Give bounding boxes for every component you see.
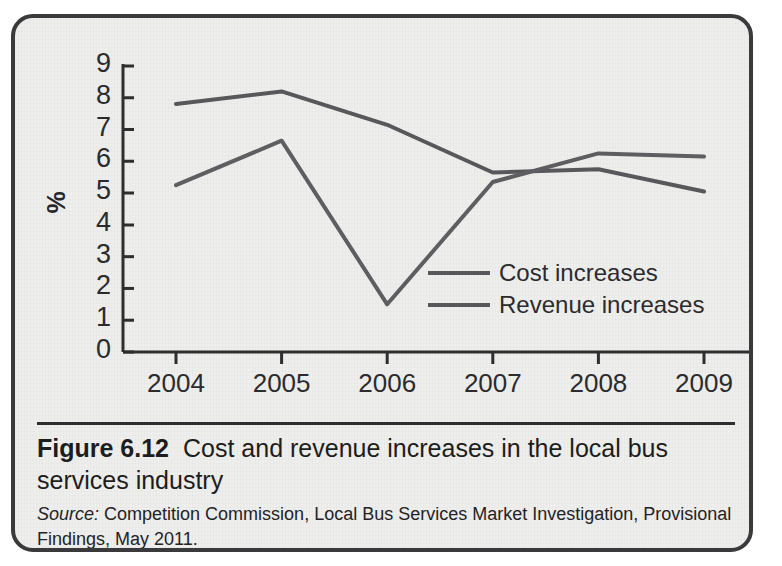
y-tick-label: 0 (81, 334, 111, 365)
y-axis-title: % (42, 191, 71, 213)
x-tick-label: 2009 (649, 368, 753, 399)
legend-swatch-revenue-increases (428, 303, 490, 307)
y-tick-label: 3 (81, 239, 111, 270)
legend-label-revenue-increases: Revenue increases (499, 291, 704, 319)
legend-item-cost-increases: Cost increases (428, 257, 704, 289)
x-tick-label: 2004 (121, 368, 231, 399)
x-tick-label: 2005 (227, 368, 337, 399)
chart-svg (15, 18, 753, 410)
y-tick-label: 5 (81, 175, 111, 206)
figure-caption: Figure 6.12Cost and revenue increases in… (37, 432, 737, 496)
x-tick-label: 2006 (332, 368, 442, 399)
y-tick-label: 8 (81, 80, 111, 111)
y-axis (123, 64, 134, 352)
chart-legend: Cost increases Revenue increases (428, 257, 704, 321)
caption-divider (37, 422, 735, 425)
y-tick-label: 2 (81, 270, 111, 301)
source-label: Source: (37, 504, 99, 524)
source-text: Competition Commission, Local Bus Servic… (37, 504, 731, 549)
legend-item-revenue-increases: Revenue increases (428, 289, 704, 321)
figure-card: % 0123456789 200420052006200720082009 Co… (11, 14, 753, 552)
y-tick-label: 1 (81, 302, 111, 333)
y-tick-label: 6 (81, 143, 111, 174)
y-tick-label: 4 (81, 207, 111, 238)
figure-number: Figure 6.12 (37, 434, 169, 462)
x-tick-label: 2007 (438, 368, 548, 399)
y-tick-label: 7 (81, 112, 111, 143)
x-axis (123, 352, 753, 364)
legend-label-cost-increases: Cost increases (499, 259, 658, 287)
figure-source: Source: Competition Commission, Local Bu… (37, 502, 743, 552)
y-tick-label: 9 (81, 48, 111, 79)
x-tick-label: 2008 (543, 368, 653, 399)
legend-swatch-cost-increases (428, 271, 490, 275)
chart-plot-area: % 0123456789 200420052006200720082009 Co… (15, 18, 753, 410)
